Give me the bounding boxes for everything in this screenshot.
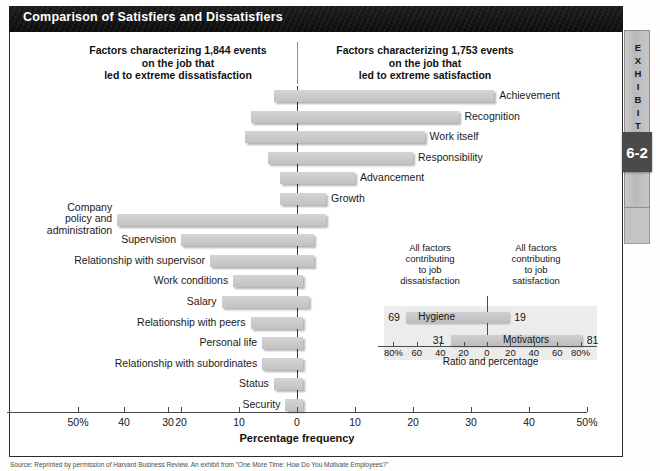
chart-plot-area: AchievementRecognitionWork itselfRespons… [0,0,614,451]
inset-header-line: satisfaction [488,275,584,286]
inset-axis-tick [557,342,558,346]
bar[interactable] [262,358,303,370]
x-axis-line [68,412,178,413]
inset-panel: All factorscontributingto jobdissatisfac… [384,244,597,360]
inset-header-satisfaction: All factorscontributingto jobsatisfactio… [488,242,584,286]
exhibit-tab-foot [624,208,650,244]
bar[interactable] [251,111,460,123]
x-axis-tick-label: 50% [572,416,602,428]
x-axis-tick [355,407,356,412]
x-axis-tick [124,407,125,412]
bar[interactable] [117,214,326,226]
inset-header-line: contributing [382,253,478,264]
inset-left-value: 31 [433,334,445,346]
x-axis-tick [78,407,79,412]
bar-row: Responsibility [0,152,614,165]
x-axis-tick [471,407,472,412]
bar-label: Advancement [360,171,424,183]
inset-bar-label: Hygiene [418,311,455,322]
inset-right-value: 81 [587,334,599,346]
inset-header-line: All factors [488,242,584,253]
bar-label: Security [242,398,280,410]
x-axis-tick-label: 10 [224,416,254,428]
bar[interactable] [233,275,303,287]
x-axis-tick-label: 40 [514,416,544,428]
inset-axis-tick [581,342,582,346]
bar-label: Status [239,377,269,389]
bar-label: Recognition [464,110,519,122]
bar-label: Companypolicy andadministration [47,202,112,237]
inset-header-line: to job [488,264,584,275]
x-axis-tick-label: 0 [282,416,312,428]
inset-header-line: dissatisfaction [382,275,478,286]
x-axis-tick-label: 20 [166,416,196,428]
bar[interactable] [210,255,314,267]
inset-header-line: contributing [488,253,584,264]
inset-header-line: All factors [382,242,478,253]
bar-label: Relationship with peers [137,316,246,328]
inset-right-value: 19 [514,311,526,323]
bar[interactable] [262,337,303,349]
bar-label: Relationship with subordinates [115,357,257,369]
x-axis-tick [413,407,414,412]
bar-label: Supervision [121,233,176,245]
x-axis-tick [239,407,240,412]
bar-row: Companypolicy andadministration [0,214,614,227]
x-axis-tick-label: 40 [109,416,139,428]
bar[interactable] [222,296,309,308]
inset-header-dissatisfaction: All factorscontributingto jobdissatisfac… [382,242,478,286]
bar[interactable] [181,234,314,246]
bar[interactable] [268,152,413,164]
bar[interactable] [274,90,494,102]
inset-axis-tick [464,342,465,346]
x-axis-tick [168,407,169,412]
x-axis-title: Percentage frequency [177,432,417,444]
source-caption: Source: Reprinted by permission of Harva… [10,461,610,469]
bar[interactable] [285,399,302,411]
x-axis-tick-label: 50% [63,416,93,428]
inset-axis-tick [393,342,394,346]
bar-row: Status [0,378,614,391]
bar-label: Work conditions [154,274,229,286]
x-axis-tick [529,407,530,412]
bar-row: Work itself [0,131,614,144]
bar[interactable] [280,172,355,184]
bar-row: Recognition [0,111,614,124]
bar-label: Work itself [430,130,479,142]
bar-row: Advancement [0,172,614,185]
bar-label: Responsibility [418,151,483,163]
bar-label: Personal life [199,336,257,348]
x-axis-tick [181,407,182,412]
inset-axis-tick [417,342,418,346]
x-axis-tick-label: 30 [456,416,486,428]
exhibit-tab-label: EXHIBIT [625,39,651,135]
inset-left-value: 69 [388,311,400,323]
exhibit-tab-strip: EXHIBIT [624,30,650,208]
inset-axis-tick [440,342,441,346]
bar[interactable] [274,378,303,390]
bar-row: Achievement [0,90,614,103]
exhibit-number-badge: 6-2 [622,132,652,172]
x-axis-tick [297,407,298,412]
bar[interactable] [280,193,326,205]
bar[interactable] [251,317,303,329]
inset-axis-tick [487,342,488,346]
bar-row: Security [0,399,614,412]
bar-label: Salary [187,295,217,307]
inset-axis-tick [534,342,535,346]
inset-header-line: to job [382,264,478,275]
x-axis-tick-label: 20 [398,416,428,428]
exhibit-tab: EXHIBIT 6-2 [623,6,651,457]
x-axis-tick-label: 10 [340,416,370,428]
bar[interactable] [245,131,425,143]
bar-label: Relationship with supervisor [74,254,205,266]
x-axis-tick [587,407,588,412]
inset-axis-tick [510,342,511,346]
exhibit-page: Comparison of Satisfiers and Dissatisfie… [0,0,660,471]
bar-label: Growth [331,192,365,204]
bar-label: Achievement [499,89,560,101]
inset-axis-title: Ratio and percentage [384,356,597,367]
